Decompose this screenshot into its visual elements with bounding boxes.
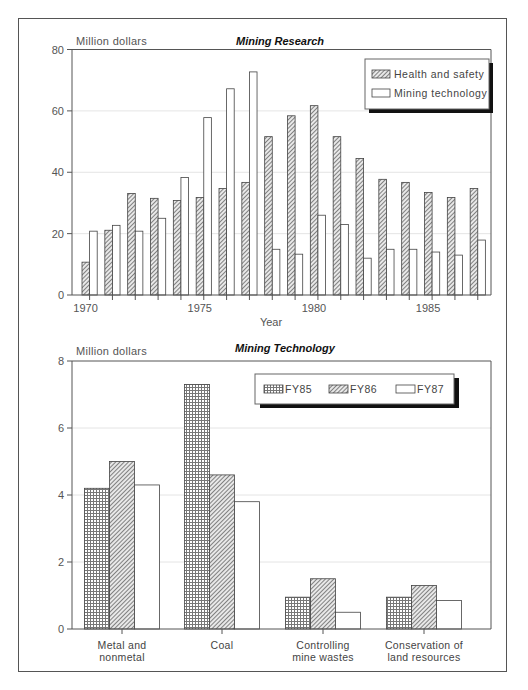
bar-mining-technology-1985: [432, 252, 440, 295]
y-axis-unit-label: Million dollars: [76, 35, 147, 47]
bar-mining-technology-1979: [295, 254, 303, 295]
bar-health-and-safety-1977: [242, 182, 250, 295]
bar-mining-technology-1973: [158, 218, 166, 295]
bar-mining-technology-1986: [455, 255, 463, 295]
bar-health-and-safety-1976: [219, 189, 227, 295]
bar-mining-technology-1981: [341, 224, 349, 295]
category-label: Coal: [211, 639, 234, 651]
y-tick-label: 4: [58, 489, 64, 501]
x-tick-label: 1980: [302, 302, 326, 314]
bar-fy85-coal: [185, 384, 210, 629]
y-tick-label: 20: [52, 228, 64, 240]
legend-label-mining-technology: Mining technology: [394, 87, 487, 99]
chart-title: Mining Technology: [235, 342, 336, 354]
bar-health-and-safety-1970: [82, 262, 90, 295]
x-tick-label: 1975: [188, 302, 212, 314]
category-label: Controlling: [296, 639, 350, 651]
bar-fy86-conservation-of-land-resources: [412, 585, 437, 629]
bar-fy85-metal-and-nonmetal: [85, 488, 110, 629]
bar-mining-technology-1974: [181, 177, 189, 295]
bar-health-and-safety-1978: [265, 137, 273, 295]
fy86-swatch: [329, 385, 348, 393]
bar-health-and-safety-1984: [402, 182, 410, 295]
bar-health-and-safety-1986: [447, 197, 455, 295]
y-tick-label: 6: [58, 422, 64, 434]
mining-technology-chart: 02468 Million dollars Mining Technology …: [58, 342, 491, 663]
y-tick-label: 8: [58, 355, 64, 367]
bar-health-and-safety-1973: [151, 198, 159, 295]
legend: FY85 FY86 FY87: [255, 374, 459, 408]
bar-fy86-coal: [210, 475, 235, 629]
y-tick-label: 60: [52, 105, 64, 117]
bar-health-and-safety-1987: [470, 189, 478, 295]
health-safety-swatch: [372, 70, 390, 78]
bar-mining-technology-1971: [112, 225, 120, 295]
bar-health-and-safety-1979: [288, 116, 296, 295]
bar-health-and-safety-1983: [379, 179, 387, 295]
y-tick-label: 0: [58, 623, 64, 635]
bar-health-and-safety-1971: [105, 230, 113, 295]
mining-technology-swatch: [372, 89, 390, 97]
x-axis-label: Year: [260, 316, 283, 328]
category-label: mine wastes: [292, 651, 354, 663]
bar-health-and-safety-1972: [128, 193, 136, 295]
bar-health-and-safety-1982: [356, 158, 364, 295]
bar-mining-technology-1982: [364, 258, 372, 295]
category-label: land resources: [387, 651, 460, 663]
bar-fy87-coal: [235, 502, 260, 629]
bar-mining-technology-1970: [90, 231, 98, 295]
bar-health-and-safety-1980: [310, 106, 318, 295]
bar-mining-technology-1983: [386, 249, 394, 295]
x-tick-label: 1985: [416, 302, 440, 314]
bar-mining-technology-1984: [409, 249, 417, 295]
bar-fy87-controlling-mine-wastes: [336, 612, 361, 629]
bar-health-and-safety-1974: [173, 200, 181, 295]
bar-mining-technology-1976: [227, 89, 235, 295]
bar-mining-technology-1977: [249, 72, 257, 295]
mining-research-chart: 0204060801970197519801985 Million dollar…: [52, 35, 493, 328]
bar-fy85-controlling-mine-wastes: [286, 597, 311, 629]
category-label: Conservation of: [385, 639, 463, 651]
y-tick-label: 40: [52, 166, 64, 178]
x-tick-label: 1970: [73, 302, 97, 314]
bar-mining-technology-1987: [478, 240, 486, 295]
y-tick-label: 80: [52, 44, 64, 56]
category-label: nonmetal: [99, 651, 145, 663]
bar-mining-technology-1975: [204, 118, 212, 295]
bar-series: [85, 384, 462, 629]
category-label: Metal and: [98, 639, 147, 651]
bar-fy85-conservation-of-land-resources: [387, 597, 412, 629]
category-labels: Metal andnonmetalCoalControllingmine was…: [98, 639, 463, 663]
legend-label-fy85: FY85: [285, 383, 312, 395]
y-tick-label: 2: [58, 556, 64, 568]
y-axis-unit-label: Million dollars: [76, 345, 147, 357]
legend-label-fy86: FY86: [350, 383, 377, 395]
bar-fy86-controlling-mine-wastes: [311, 579, 336, 629]
chart-title: Mining Research: [236, 35, 324, 47]
legend-label-fy87: FY87: [417, 383, 444, 395]
bar-fy86-metal-and-nonmetal: [110, 462, 135, 630]
bar-mining-technology-1972: [135, 231, 143, 295]
y-tick-label: 0: [58, 289, 64, 301]
legend: Health and safety Mining technology: [365, 59, 493, 113]
fy87-swatch: [396, 385, 415, 393]
legend-box: [365, 59, 489, 109]
bar-health-and-safety-1985: [425, 193, 433, 295]
bar-mining-technology-1980: [318, 215, 326, 295]
bar-health-and-safety-1981: [333, 137, 341, 295]
legend-label-health-safety: Health and safety: [394, 68, 484, 80]
bar-fy87-conservation-of-land-resources: [437, 601, 462, 629]
figure-canvas: 0204060801970197519801985 Million dollar…: [0, 0, 528, 690]
fy85-swatch: [264, 385, 283, 393]
bar-health-and-safety-1975: [196, 197, 204, 295]
bar-fy87-metal-and-nonmetal: [135, 485, 160, 629]
bar-mining-technology-1978: [272, 249, 280, 295]
